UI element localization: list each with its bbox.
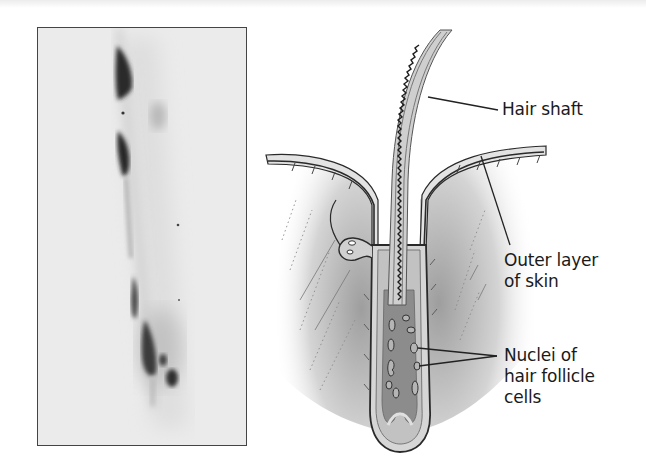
label-nuclei-line-1: Nuclei of <box>504 345 644 366</box>
hair-follicle-micrograph <box>37 27 247 446</box>
leader-line-hair-shaft <box>428 97 498 110</box>
label-nuclei-line-3: cells <box>504 387 644 408</box>
label-nuclei-of-hair-follicle-cells: Nuclei of hair follicle cells <box>504 345 644 408</box>
skin-tissue-left <box>268 160 378 430</box>
label-outer-layer-line-1: Outer layer <box>504 250 644 271</box>
label-nuclei-line-2: hair follicle <box>504 366 644 387</box>
hair-bulb <box>382 290 417 423</box>
micrograph-image <box>38 28 246 445</box>
label-outer-layer-line-2: of skin <box>504 271 644 292</box>
label-outer-layer-of-skin: Outer layer of skin <box>504 250 644 292</box>
label-hair-shaft: Hair shaft <box>502 99 583 120</box>
